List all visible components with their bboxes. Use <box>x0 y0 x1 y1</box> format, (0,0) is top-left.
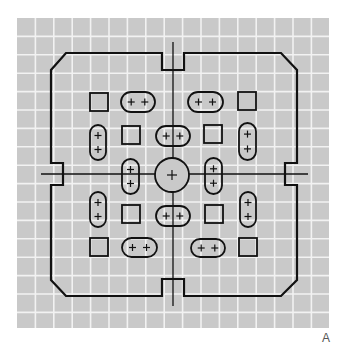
center-circle <box>155 158 189 192</box>
panel-label: A <box>322 331 330 345</box>
board-diagram <box>0 0 354 350</box>
